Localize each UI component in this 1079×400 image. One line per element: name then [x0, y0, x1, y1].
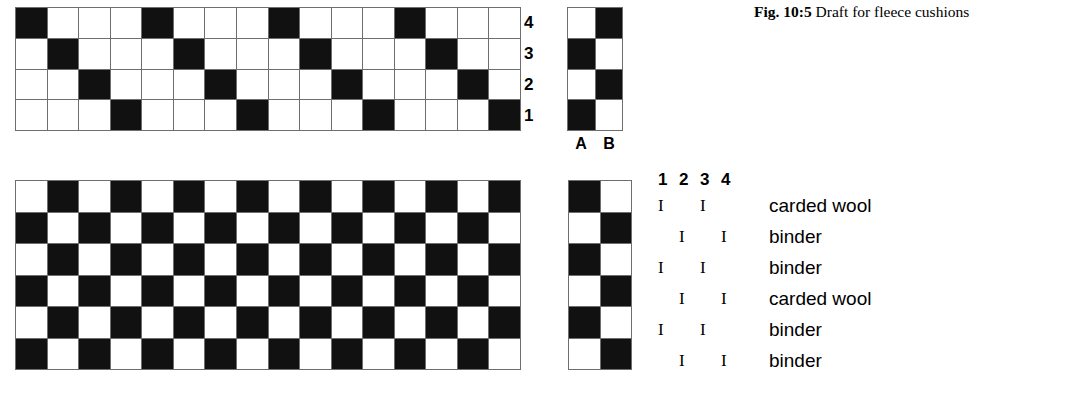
treadling-cell [601, 339, 633, 371]
drawdown-cell [79, 339, 111, 371]
threading-cell [363, 8, 395, 39]
drawdown-cell [174, 181, 206, 213]
drawdown-cell [363, 181, 395, 213]
drawdown-cell [269, 307, 301, 339]
drawdown-cell [48, 276, 80, 308]
drawdown-cell [237, 307, 269, 339]
threading-cell [111, 39, 143, 70]
threading-cell [237, 100, 269, 131]
threading-cell [111, 70, 143, 101]
treadling-key-row: IIbinder [658, 314, 1018, 345]
threading-cell [489, 100, 521, 131]
drawdown-cell [79, 276, 111, 308]
shaft-number-labels: 4321 [524, 7, 550, 131]
threading-cell [300, 70, 332, 101]
tie-up-grid [567, 7, 623, 131]
threading-cell [48, 70, 80, 101]
drawdown-cell [426, 181, 458, 213]
treadling-mark: I [700, 321, 721, 338]
threading-cell [395, 100, 427, 131]
threading-cell [426, 8, 458, 39]
drawdown-cell [111, 181, 143, 213]
tie-up-cell [596, 70, 624, 101]
treadling-cell [569, 213, 601, 245]
drawdown-cell [458, 213, 490, 245]
drawdown-cell [300, 244, 332, 276]
drawdown-cell [269, 181, 301, 213]
treadling-key-row: IIcarded wool [658, 283, 1018, 314]
treadling-mark: I [658, 259, 679, 276]
treadling-cell [569, 307, 601, 339]
drawdown-cell [205, 339, 237, 371]
drawdown-cell [363, 339, 395, 371]
threading-cell [237, 39, 269, 70]
caption-prefix: Fig. [754, 3, 779, 20]
drawdown-cell [142, 276, 174, 308]
threading-cell [332, 70, 364, 101]
caption-text: Draft for fleece cushions [816, 3, 970, 20]
tie-up-cell [568, 39, 596, 70]
drawdown-cell [174, 276, 206, 308]
threading-cell [205, 39, 237, 70]
threading-cell [458, 70, 490, 101]
threading-cell [174, 100, 206, 131]
threading-cell [489, 39, 521, 70]
treadling-mark: I [658, 197, 679, 214]
drawdown-cell [363, 276, 395, 308]
threading-draft-grid [15, 7, 521, 131]
yarn-label: carded wool [769, 289, 871, 308]
treadling-key-headers: 1234 [658, 166, 1018, 188]
treadling-mark: I [721, 290, 742, 307]
drawdown-cell [300, 307, 332, 339]
treadling-key-row: IIbinder [658, 221, 1018, 252]
drawdown-cell [205, 244, 237, 276]
tie-up-label-a: A [567, 134, 595, 154]
threading-cell [458, 8, 490, 39]
threading-cell [237, 70, 269, 101]
drawdown-cell [79, 244, 111, 276]
drawdown-cell [111, 244, 143, 276]
threading-cell [426, 100, 458, 131]
treadling-mark: I [679, 228, 700, 245]
tie-up-cell [568, 100, 596, 131]
threading-cell [458, 39, 490, 70]
threading-cell [395, 8, 427, 39]
shaft-label-2: 2 [524, 69, 550, 100]
threading-cell [269, 100, 301, 131]
treadling-mark: I [679, 352, 700, 369]
drawdown-cell [79, 213, 111, 245]
threading-cell [142, 39, 174, 70]
drawdown-cell [48, 181, 80, 213]
threading-cell [48, 8, 80, 39]
drawdown-cell [174, 213, 206, 245]
drawdown-cell [300, 276, 332, 308]
drawdown-cell [426, 276, 458, 308]
threading-cell [205, 100, 237, 131]
drawdown-cell [205, 276, 237, 308]
drawdown-cell [111, 307, 143, 339]
drawdown-cell [174, 307, 206, 339]
threading-cell [16, 8, 48, 39]
drawdown-cell [458, 244, 490, 276]
threading-cell [48, 100, 80, 131]
threading-cell [363, 100, 395, 131]
drawdown-cell [395, 181, 427, 213]
shaft-label-4: 4 [524, 7, 550, 38]
drawdown-cell [142, 244, 174, 276]
drawdown-cell [48, 339, 80, 371]
threading-cell [16, 100, 48, 131]
treadling-cell [601, 244, 633, 276]
drawdown-cell [269, 276, 301, 308]
drawdown-cell [237, 244, 269, 276]
threading-cell [174, 39, 206, 70]
treadling-cell [601, 307, 633, 339]
treadling-key-row: IIbinder [658, 345, 1018, 376]
yarn-label: binder [769, 258, 822, 277]
drawdown-cell [332, 307, 364, 339]
tie-up-cell [568, 8, 596, 39]
threading-cell [426, 39, 458, 70]
drawdown-cell [300, 181, 332, 213]
shaft-label-3: 3 [524, 38, 550, 69]
treadling-key-rows: IIcarded woolIIbinderIIbinderIIcarded wo… [658, 190, 1018, 376]
threading-cell [332, 8, 364, 39]
